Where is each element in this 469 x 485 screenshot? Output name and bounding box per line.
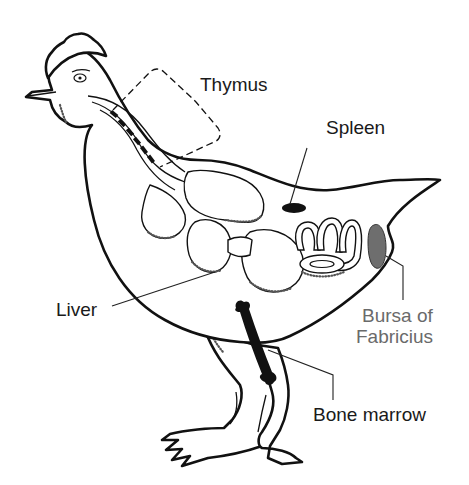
spleen <box>282 203 306 213</box>
bursa-leader <box>386 256 403 300</box>
label-bursa-line2: Fabricius <box>356 327 433 347</box>
label-bursa-line1: Bursa of <box>362 306 433 326</box>
bursa-of-fabricius <box>368 224 386 268</box>
label-spleen: Spleen <box>326 118 385 138</box>
label-bone-marrow: Bone marrow <box>313 405 426 425</box>
label-thymus: Thymus <box>200 75 268 95</box>
legs <box>162 330 302 466</box>
label-liver: Liver <box>56 300 97 320</box>
